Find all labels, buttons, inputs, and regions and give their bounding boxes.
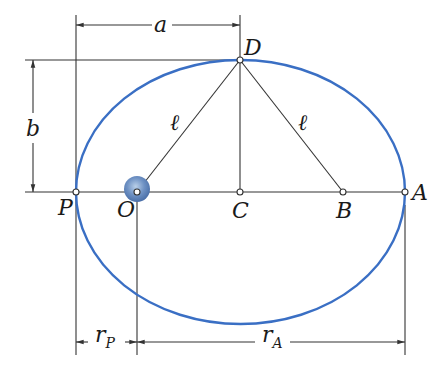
point-b [340,189,346,195]
point-c [237,189,243,195]
point-o [134,189,140,195]
label-a-point: A [410,180,428,205]
label-c: C [232,198,249,223]
label-ra: rA [262,322,283,351]
point-a [402,189,408,195]
label-l-od: ℓ [170,110,180,135]
label-d: D [243,35,262,60]
label-b-point: B [335,198,352,223]
label-o: O [117,197,135,222]
label-b: b [26,116,40,141]
label-rp: rP [95,322,116,351]
label-a: a [154,12,167,37]
label-p: P [57,195,74,220]
point-p [73,189,79,195]
orbit-diagram: a b rP rA ℓ ℓ P O C B A D [0,0,442,373]
label-l-bd: ℓ [298,110,308,135]
point-d [237,57,243,63]
